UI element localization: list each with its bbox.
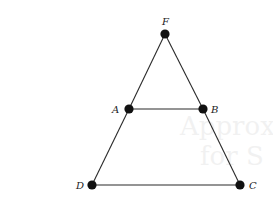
segment-fb [165,34,203,109]
label-f: F [161,16,170,27]
label-c: C [249,180,257,191]
svg-text:Approxim: Approxim [179,111,273,141]
label-b: B [210,104,218,115]
point-b-icon [198,104,207,113]
label-d: D [75,180,84,191]
point-c-icon [235,180,244,189]
label-a: A [111,104,119,115]
point-f-icon [160,29,169,38]
segment-ad [92,109,129,185]
geometry-diagram: Approxim for S FABDC [0,0,273,203]
point-d-icon [87,180,96,189]
segment-fa [129,34,165,109]
background-bleed-through: Approxim for S [179,111,273,171]
diagram-canvas: Approxim for S FABDC [0,0,273,203]
point-a-icon [124,104,133,113]
svg-text:for S: for S [200,141,264,171]
